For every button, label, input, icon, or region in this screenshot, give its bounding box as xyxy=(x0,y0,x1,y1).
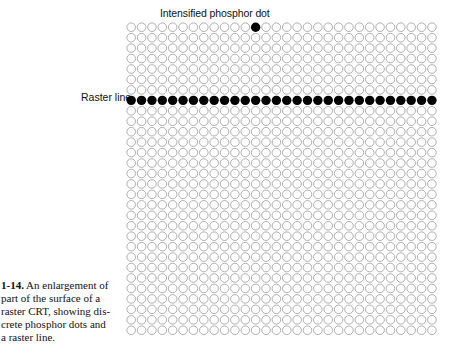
phosphor-dot xyxy=(282,190,291,199)
phosphor-dot xyxy=(272,65,281,74)
phosphor-dot xyxy=(345,295,354,304)
phosphor-dot xyxy=(220,180,229,189)
phosphor-dot xyxy=(220,295,229,304)
phosphor-dot xyxy=(168,295,177,304)
phosphor-dot xyxy=(148,180,157,189)
phosphor-dot xyxy=(158,221,167,230)
phosphor-dot xyxy=(241,221,250,230)
phosphor-dot xyxy=(334,242,343,251)
phosphor-dot xyxy=(168,127,177,136)
phosphor-dot xyxy=(231,138,240,147)
phosphor-dot xyxy=(220,190,229,199)
phosphor-dot xyxy=(355,65,364,74)
phosphor-dot xyxy=(168,316,177,325)
phosphor-dot xyxy=(189,138,198,147)
phosphor-dot xyxy=(179,274,188,283)
phosphor-dot xyxy=(303,159,312,168)
phosphor-dot xyxy=(137,316,146,325)
phosphor-dot xyxy=(210,169,219,178)
phosphor-dot xyxy=(355,117,364,126)
phosphor-dot xyxy=(241,148,250,157)
phosphor-dot xyxy=(199,326,208,335)
phosphor-dot xyxy=(428,284,437,293)
phosphor-dot xyxy=(397,284,406,293)
phosphor-dot xyxy=(272,305,281,314)
phosphor-dot xyxy=(334,148,343,157)
phosphor-dot xyxy=(355,232,364,241)
phosphor-dot xyxy=(397,159,406,168)
phosphor-dot xyxy=(251,295,260,304)
phosphor-dot xyxy=(231,169,240,178)
phosphor-dot xyxy=(314,284,323,293)
phosphor-dot xyxy=(314,107,323,116)
phosphor-dot xyxy=(345,201,354,210)
phosphor-dot xyxy=(324,44,333,53)
phosphor-dot xyxy=(345,316,354,325)
phosphor-dot xyxy=(241,138,250,147)
phosphor-dot xyxy=(241,284,250,293)
phosphor-dot xyxy=(376,33,385,42)
phosphor-dot xyxy=(345,33,354,42)
phosphor-dot xyxy=(407,65,416,74)
phosphor-dot xyxy=(168,75,177,84)
phosphor-dot-grid xyxy=(126,22,437,336)
phosphor-dot xyxy=(262,316,271,325)
phosphor-dot xyxy=(345,242,354,251)
phosphor-dot xyxy=(303,148,312,157)
phosphor-dot xyxy=(220,326,229,335)
phosphor-dot xyxy=(158,190,167,199)
phosphor-dot xyxy=(262,221,271,230)
phosphor-dot xyxy=(210,33,219,42)
phosphor-dot xyxy=(303,232,312,241)
phosphor-dot xyxy=(334,295,343,304)
phosphor-dot xyxy=(303,54,312,63)
phosphor-dot xyxy=(220,107,229,116)
phosphor-dot xyxy=(189,263,198,272)
phosphor-dot xyxy=(428,54,437,63)
phosphor-dot xyxy=(231,242,240,251)
phosphor-dot xyxy=(262,190,271,199)
phosphor-dot xyxy=(345,54,354,63)
phosphor-dot xyxy=(397,23,406,32)
phosphor-dot xyxy=(334,169,343,178)
phosphor-dot xyxy=(127,305,136,314)
phosphor-dot xyxy=(179,107,188,116)
phosphor-dot xyxy=(345,253,354,262)
phosphor-dot xyxy=(324,242,333,251)
raster-line-dot xyxy=(137,96,146,105)
phosphor-dot xyxy=(334,232,343,241)
phosphor-dot xyxy=(365,295,374,304)
phosphor-dot xyxy=(210,295,219,304)
phosphor-dot xyxy=(199,65,208,74)
phosphor-dot xyxy=(334,253,343,262)
phosphor-dot xyxy=(210,159,219,168)
phosphor-dot xyxy=(199,159,208,168)
phosphor-dot xyxy=(282,75,291,84)
phosphor-dot xyxy=(376,253,385,262)
phosphor-dot xyxy=(345,117,354,126)
phosphor-dot xyxy=(262,242,271,251)
phosphor-dot xyxy=(282,316,291,325)
phosphor-dot xyxy=(137,75,146,84)
phosphor-dot xyxy=(168,253,177,262)
phosphor-dot xyxy=(210,284,219,293)
phosphor-dot xyxy=(158,274,167,283)
phosphor-dot xyxy=(199,305,208,314)
phosphor-dot xyxy=(407,86,416,95)
phosphor-dot xyxy=(314,232,323,241)
raster-line-dot xyxy=(365,96,374,105)
phosphor-dot xyxy=(293,201,302,210)
phosphor-dot xyxy=(428,44,437,53)
phosphor-dot xyxy=(334,44,343,53)
phosphor-dot xyxy=(251,138,260,147)
phosphor-dot xyxy=(314,54,323,63)
phosphor-dot xyxy=(251,274,260,283)
phosphor-dot xyxy=(168,201,177,210)
phosphor-dot xyxy=(407,75,416,84)
phosphor-dot xyxy=(345,263,354,272)
phosphor-dot xyxy=(345,232,354,241)
phosphor-dot xyxy=(262,23,271,32)
phosphor-dot xyxy=(199,138,208,147)
phosphor-dot xyxy=(148,274,157,283)
phosphor-dot xyxy=(386,232,395,241)
